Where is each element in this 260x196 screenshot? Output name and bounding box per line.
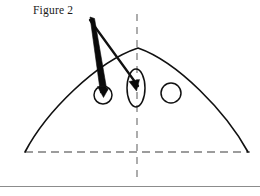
arrowhead-small-circle — [98, 87, 109, 98]
figure-drawing — [0, 0, 260, 196]
footer-rule — [0, 186, 260, 187]
thick-leader-wedge — [90, 17, 107, 93]
arrowhead-ellipse — [129, 80, 140, 92]
figure-caption: Figure 2 — [33, 4, 73, 17]
right-circle — [161, 83, 181, 103]
figure-page: Figure 2 — [0, 0, 260, 196]
